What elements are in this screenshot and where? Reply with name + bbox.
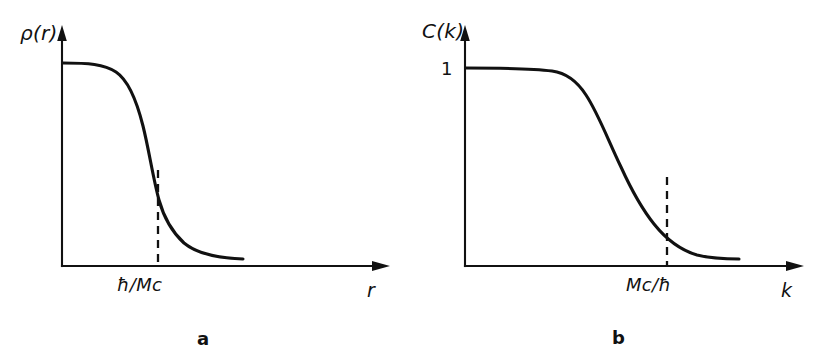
panel-b-y-axis-label: C(k) (422, 21, 464, 41)
panel-a-curve (63, 63, 243, 259)
panel-a-y-axis-label: ρ(r) (20, 23, 58, 43)
panel-a-x-axis-label: r (367, 281, 375, 300)
panel-b-x-tick-label: Mc/ħ (626, 276, 671, 294)
panel-a-caption: a (197, 330, 209, 348)
panel-b-caption: b (612, 329, 625, 347)
panel-b-y-tick-label: 1 (441, 60, 452, 78)
panel-b-x-axis-arrowhead (786, 261, 804, 271)
panel-b-x-axis-label: k (781, 281, 792, 300)
panel-a: ρ(r) r ħ/Mc a (0, 0, 409, 361)
panel-a-x-axis-arrowhead (372, 261, 390, 271)
panel-b-curve (466, 68, 739, 259)
panel-a-plot (0, 0, 409, 361)
panel-b: C(k) 1 k Mc/ħ b (409, 0, 818, 361)
panel-a-x-tick-label: ħ/Mc (117, 276, 162, 294)
figure-root: ρ(r) r ħ/Mc a C(k) 1 k Mc/ħ b (0, 0, 818, 361)
panel-a-y-axis-arrowhead (57, 25, 67, 41)
panel-b-plot (409, 0, 818, 361)
